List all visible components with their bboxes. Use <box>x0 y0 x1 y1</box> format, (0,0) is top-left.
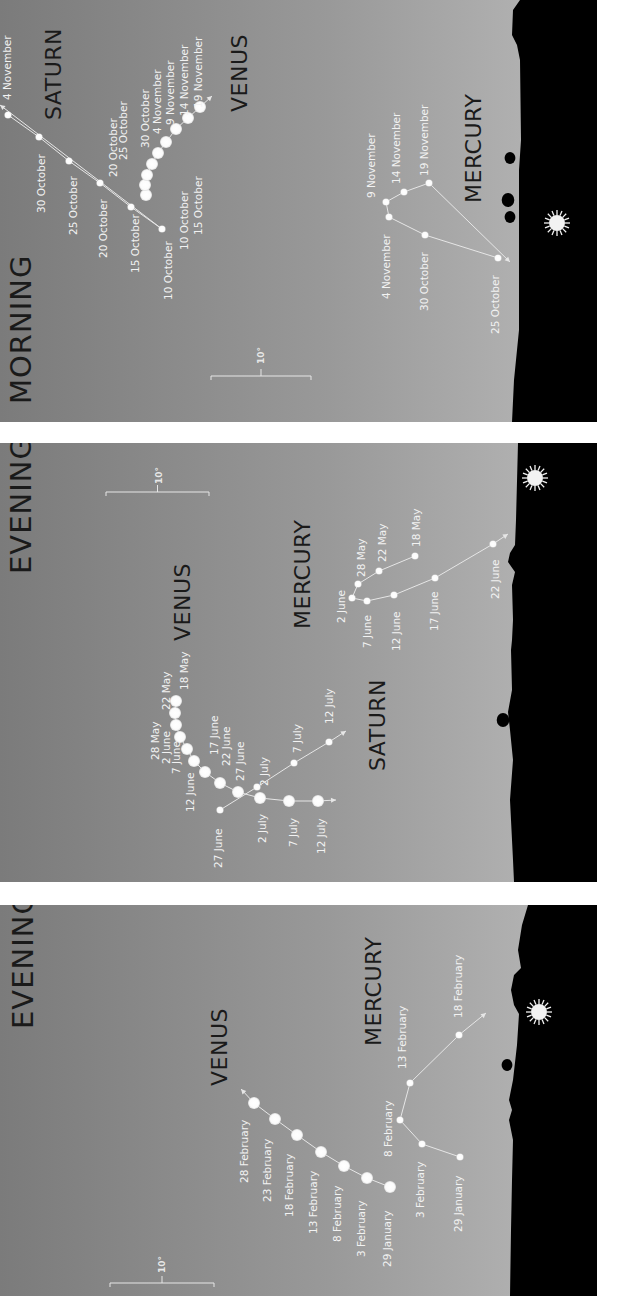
planet-position-dot <box>283 795 295 807</box>
date-label: 13 February <box>396 1006 408 1069</box>
planet-name: SATURN <box>41 28 66 120</box>
date-label: 2 June <box>335 590 347 623</box>
tree-silhouette <box>502 193 515 207</box>
date-label: 17 June <box>208 715 220 755</box>
planet-position-dot <box>216 806 223 813</box>
date-label: 9 November <box>164 60 176 125</box>
planet-position-dot <box>425 179 432 186</box>
planet-position-dot <box>382 198 389 205</box>
date-label: 10 October <box>162 241 174 300</box>
date-label: 30 October <box>418 252 430 311</box>
horizon-silhouette <box>512 0 597 422</box>
planet-position-dot <box>406 1079 413 1086</box>
planet-position-dot <box>160 136 172 148</box>
date-label: 22 May <box>160 672 172 710</box>
date-label: 29 January <box>381 1210 393 1267</box>
date-label: 29 January <box>452 1175 464 1232</box>
date-label: 23 February <box>261 1139 273 1202</box>
horizon-silhouette <box>509 905 597 1296</box>
planet-position-dot <box>455 1031 462 1038</box>
planet-position-dot <box>375 567 382 574</box>
date-label: 18 February <box>452 955 464 1018</box>
date-label: 4 November <box>1 35 13 100</box>
planet-position-dot <box>4 111 11 118</box>
date-label: 19 November <box>192 36 204 108</box>
sun-icon <box>544 210 570 236</box>
scale-label: 10° <box>154 467 164 484</box>
planet-position-dot <box>411 552 418 559</box>
planet-position-dot <box>254 792 266 804</box>
planet-positions-diagram: 10°MORNING4 November30 October25 October… <box>0 0 633 1296</box>
planet-position-dot <box>312 795 324 807</box>
sun-icon <box>526 999 552 1025</box>
planet-position-dot <box>384 1181 396 1193</box>
date-label: 22 May <box>376 524 388 562</box>
panel-title: EVENING <box>6 891 40 1029</box>
planet-position-dot <box>456 1153 463 1160</box>
date-label: 12 July <box>315 818 327 854</box>
planet-position-dot <box>181 743 193 755</box>
panel-evening-bottom: 10°EVENING29 January3 February8 February… <box>0 891 597 1296</box>
date-label: 9 November <box>365 133 377 198</box>
date-label: 18 May <box>410 509 422 547</box>
planet-name: VENUS <box>207 1008 232 1086</box>
planet-name: SATURN <box>365 679 390 771</box>
date-label: 22 June <box>220 726 232 766</box>
panels-group: 10°MORNING4 November30 October25 October… <box>0 0 597 1296</box>
date-label: 2 July <box>258 757 270 786</box>
date-label: 2 July <box>256 814 268 843</box>
tree-silhouette <box>505 152 516 164</box>
sky-background <box>0 0 597 422</box>
planet-position-dot <box>489 540 496 547</box>
date-label: 7 June <box>170 741 182 774</box>
planet-position-dot <box>199 766 211 778</box>
planet-position-dot <box>348 594 355 601</box>
date-label: 25 October <box>489 275 501 334</box>
planet-position-dot <box>494 254 501 261</box>
planet-position-dot <box>158 225 165 232</box>
date-label: 10 October <box>178 191 190 250</box>
date-label: 17 June <box>428 591 440 631</box>
tree-silhouette <box>497 713 510 727</box>
planet-name: MERCURY <box>361 937 386 1046</box>
planet-position-dot <box>390 591 397 598</box>
date-label: 25 October <box>117 101 129 160</box>
date-label: 12 July <box>323 688 335 724</box>
date-label: 14 November <box>178 44 190 116</box>
sky-background <box>0 443 597 882</box>
date-label: 7 July <box>287 818 299 847</box>
planet-position-dot <box>65 157 72 164</box>
date-label: 12 June <box>390 611 402 651</box>
planet-position-dot <box>354 580 361 587</box>
date-label: 28 May <box>355 539 367 577</box>
planet-position-dot <box>325 738 332 745</box>
planet-position-dot <box>248 1097 260 1109</box>
date-label: 3 February <box>414 1161 426 1218</box>
planet-position-dot <box>396 1116 403 1123</box>
date-label: 3 February <box>355 1200 367 1257</box>
date-label: 20 October <box>97 199 109 258</box>
sky-chart-canvas: 10°MORNING4 November30 October25 October… <box>0 0 633 1296</box>
date-label: 8 February <box>382 1100 394 1157</box>
planet-position-dot <box>127 203 134 210</box>
planet-position-dot <box>96 179 103 186</box>
planet-position-dot <box>139 179 151 191</box>
date-label: 22 June <box>489 559 501 599</box>
planet-position-dot <box>188 755 200 767</box>
planet-position-dot <box>400 188 407 195</box>
date-label: 7 June <box>361 615 373 648</box>
date-label: 30 October <box>139 89 151 148</box>
date-label: 28 February <box>238 1120 250 1183</box>
planet-position-dot <box>170 719 182 731</box>
planet-position-dot <box>315 1146 327 1158</box>
planet-position-dot <box>363 597 370 604</box>
date-label: 30 October <box>35 154 47 213</box>
sky-background <box>0 905 597 1296</box>
panel-title: EVENING <box>4 436 38 574</box>
date-label: 12 June <box>184 772 196 812</box>
planet-position-dot <box>141 169 153 181</box>
planet-position-dot <box>361 1172 373 1184</box>
planet-name: VENUS <box>227 34 252 112</box>
planet-position-dot <box>214 777 226 789</box>
date-label: 4 November <box>380 234 392 299</box>
